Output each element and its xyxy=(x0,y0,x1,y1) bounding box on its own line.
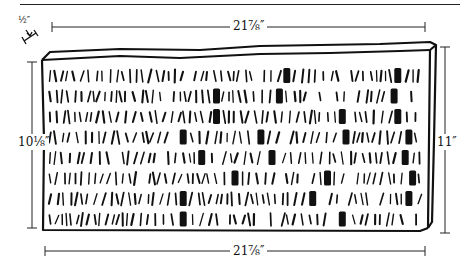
inscription-row xyxy=(50,68,419,83)
divider-marker xyxy=(405,191,412,206)
top-width-label: 21⅞″ xyxy=(230,20,267,32)
divider-marker xyxy=(213,89,220,104)
divider-marker xyxy=(180,212,187,227)
divider-marker xyxy=(213,109,220,124)
divider-marker xyxy=(276,89,283,104)
inscription-row xyxy=(49,212,416,227)
inscription-row xyxy=(50,150,420,165)
divider-marker xyxy=(405,130,412,145)
left-height-label: 10⅛″ xyxy=(18,134,49,150)
divider-marker xyxy=(283,68,290,83)
inscription-row xyxy=(49,89,411,104)
tablet-sketch xyxy=(0,0,470,271)
divider-marker xyxy=(180,191,187,206)
divider-marker xyxy=(324,171,331,186)
divider-marker xyxy=(232,171,239,186)
divider-marker xyxy=(409,171,416,186)
divider-marker xyxy=(198,150,205,165)
right-height-label: 11″ xyxy=(437,134,457,150)
thickness-indicator xyxy=(22,30,38,44)
divider-marker xyxy=(394,68,401,83)
inscription-row xyxy=(49,171,419,186)
thickness-label: ½″ xyxy=(18,14,30,26)
divider-marker xyxy=(257,130,264,145)
inscription-row xyxy=(49,191,422,206)
divider-marker xyxy=(339,109,346,124)
divider-marker xyxy=(394,109,401,124)
inscription-row xyxy=(50,109,416,124)
divider-marker xyxy=(402,150,409,165)
divider-marker xyxy=(309,191,316,206)
inscription-rows xyxy=(49,68,422,227)
bottom-width-label: 21⅞″ xyxy=(230,245,267,257)
inscription-row xyxy=(49,130,416,145)
divider-marker xyxy=(391,89,398,104)
divider-marker xyxy=(269,150,276,165)
divider-marker xyxy=(180,130,187,145)
divider-marker xyxy=(339,212,346,227)
divider-marker xyxy=(343,130,350,145)
